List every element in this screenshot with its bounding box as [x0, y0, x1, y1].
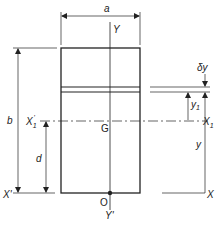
label-centroid-g: G	[101, 123, 109, 134]
label-a: a	[104, 3, 110, 14]
label-y-axis-bottom: Y'	[105, 210, 115, 221]
label-x-prime: X'	[2, 189, 13, 200]
label-x1: X1	[202, 116, 214, 129]
label-x1-prime: X1'	[25, 114, 37, 129]
label-y-axis-top: Y	[113, 24, 121, 35]
label-y: y	[195, 139, 202, 150]
label-d: d	[36, 153, 42, 164]
label-y1: y1	[190, 99, 200, 111]
origin-point	[108, 191, 112, 195]
label-b: b	[7, 115, 13, 126]
label-origin-o: O	[100, 197, 108, 208]
label-x: X	[206, 189, 214, 200]
section-diagram: a Y b d G O Y' X' X X1' X1 δy y1 y	[0, 0, 220, 225]
section-rectangle	[61, 48, 140, 193]
label-delta-y: δy	[197, 62, 209, 73]
